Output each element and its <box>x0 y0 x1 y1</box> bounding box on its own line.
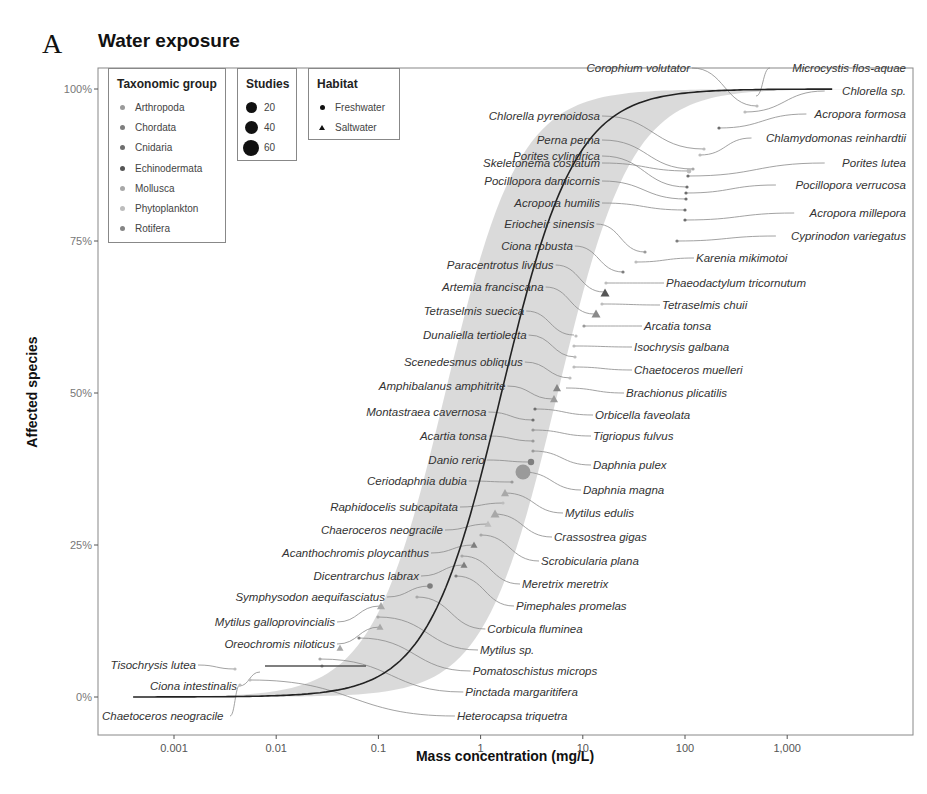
freshwater-marker <box>634 260 637 263</box>
freshwater-marker <box>684 197 687 200</box>
leader-line <box>602 304 660 305</box>
freshwater-marker <box>573 355 576 358</box>
legend-key-icon <box>238 121 264 134</box>
x-tick-label: 100 <box>676 742 694 754</box>
freshwater-marker <box>479 533 482 536</box>
legend-key-icon <box>109 186 135 191</box>
species-label: Pomatoschistus microps <box>473 665 598 677</box>
x-tick-label: 0.01 <box>265 742 286 754</box>
freshwater-marker <box>572 365 575 368</box>
freshwater-marker <box>238 683 241 686</box>
y-tick-label: 75% <box>70 235 92 247</box>
freshwater-marker <box>454 574 457 577</box>
legend-key-icon <box>109 145 135 150</box>
species-label: Scenedesmus obliquus <box>404 356 523 368</box>
saltwater-marker <box>592 310 601 318</box>
species-label: Dunaliella tertiolecta <box>423 329 527 341</box>
species-label: Arcatia tonsa <box>643 320 711 332</box>
legend-item: 20 <box>238 97 296 117</box>
species-label: Symphysodon aequifasciatus <box>235 591 385 603</box>
freshwater-marker <box>531 439 534 442</box>
species-label: Heterocapsa triquetra <box>457 710 568 722</box>
species-label: Pinctada margaritifera <box>465 686 578 698</box>
freshwater-marker <box>528 459 534 465</box>
saltwater-marker <box>601 289 610 297</box>
legend-item: Phytoplankton <box>109 198 225 218</box>
freshwater-marker <box>248 678 251 681</box>
leader-line <box>574 346 632 347</box>
species-label: Pocillopora verrucosa <box>795 179 906 191</box>
species-label: Tetraselmis suecica <box>424 305 525 317</box>
freshwater-marker <box>691 167 694 170</box>
y-tick-label: 50% <box>70 387 92 399</box>
species-label: Corbicula fluminea <box>487 623 582 635</box>
freshwater-marker <box>533 407 536 410</box>
legend-item: Chordata <box>109 117 225 137</box>
leader-line <box>686 185 776 193</box>
legend-label: Phytoplankton <box>135 203 198 214</box>
species-label: Mytilus galloprovincialis <box>215 616 335 628</box>
species-label: Karenia mikimotoi <box>696 252 788 264</box>
species-label: Daphnia magna <box>583 484 664 496</box>
species-label: Corophium volutator <box>586 62 691 74</box>
legend-item: Saltwater <box>309 117 399 137</box>
legend-key-icon <box>309 105 335 110</box>
species-label: Chlamydomonas reinhardtii <box>766 132 906 144</box>
freshwater-marker <box>683 208 686 211</box>
freshwater-marker <box>686 174 689 177</box>
leader-line <box>677 236 776 241</box>
species-label: Pocillopora damicornis <box>484 175 600 187</box>
species-label: Mytilus edulis <box>565 507 634 519</box>
leader-line <box>636 258 694 262</box>
species-label: Pimephales promelas <box>516 600 627 612</box>
species-label: Scrobicularia plana <box>541 555 639 567</box>
species-label: Meretrix meretrix <box>522 578 610 590</box>
leader-line <box>685 213 794 220</box>
freshwater-marker <box>531 428 534 431</box>
species-label: Acropora humilis <box>513 197 600 209</box>
freshwater-marker <box>510 480 513 483</box>
species-label: Artemia franciscana <box>441 281 544 293</box>
species-label: Paracentrotus lividus <box>447 259 554 271</box>
species-label: Daphnia pulex <box>593 459 668 471</box>
legend-item: Echinodermata <box>109 158 225 178</box>
species-label: Chaetoceros neogracile <box>102 710 223 722</box>
legend-studies: Studies 204060 <box>237 68 297 161</box>
species-label: Acropora formosa <box>814 108 906 120</box>
legend-label: Saltwater <box>335 122 377 133</box>
species-label: Ciona robusta <box>501 240 573 252</box>
leader-line <box>574 367 632 370</box>
leader-line <box>337 606 380 622</box>
freshwater-marker <box>568 376 571 379</box>
legend-label: Mollusca <box>135 183 174 194</box>
freshwater-marker <box>415 595 418 598</box>
legend-key-icon <box>109 226 135 231</box>
leader-line <box>602 203 685 210</box>
leader-line <box>566 388 624 393</box>
legend-label: 60 <box>264 142 275 153</box>
species-label: Chlorella pyrenoidosa <box>489 110 600 122</box>
freshwater-marker <box>702 147 705 150</box>
legend-title: Habitat <box>317 77 399 91</box>
species-label: Tigriopus fulvus <box>593 430 674 442</box>
freshwater-marker <box>621 270 624 273</box>
freshwater-marker <box>600 302 603 305</box>
legend-key-icon <box>109 125 135 130</box>
freshwater-marker <box>743 110 746 113</box>
species-label: Danio rerio <box>428 454 485 466</box>
species-label: Microcystis flos-aquae <box>792 62 906 74</box>
freshwater-marker <box>574 334 577 337</box>
x-tick-label: 0.001 <box>160 742 188 754</box>
y-tick-label: 25% <box>70 539 92 551</box>
leader-line <box>700 138 752 155</box>
legend-taxonomic-group: Taxonomic group ArthropodaChordataCnidar… <box>108 68 226 243</box>
freshwater-marker <box>755 104 758 107</box>
legend-items: FreshwaterSaltwater <box>309 97 399 138</box>
legend-habitat: Habitat FreshwaterSaltwater <box>308 68 400 140</box>
freshwater-marker <box>357 636 360 639</box>
legend-key-icon <box>309 125 335 130</box>
freshwater-marker <box>643 250 646 253</box>
species-label: Oreochromis niloticus <box>224 638 335 650</box>
species-label: Mytilus sp. <box>480 644 534 656</box>
species-label: Chlorella sp. <box>842 85 906 97</box>
